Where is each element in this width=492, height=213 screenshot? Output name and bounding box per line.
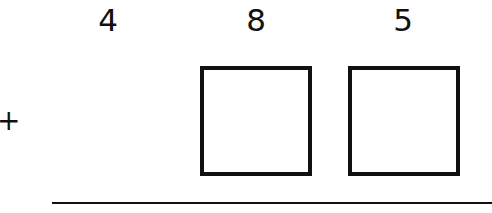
answer-box-ones[interactable] xyxy=(348,66,460,176)
sum-line xyxy=(52,202,492,204)
top-digit-hundreds: 4 xyxy=(88,2,128,38)
top-digit-tens: 8 xyxy=(236,2,276,38)
answer-box-tens[interactable] xyxy=(200,66,312,176)
top-digit-ones: 5 xyxy=(383,2,423,38)
plus-sign: + xyxy=(0,103,20,139)
